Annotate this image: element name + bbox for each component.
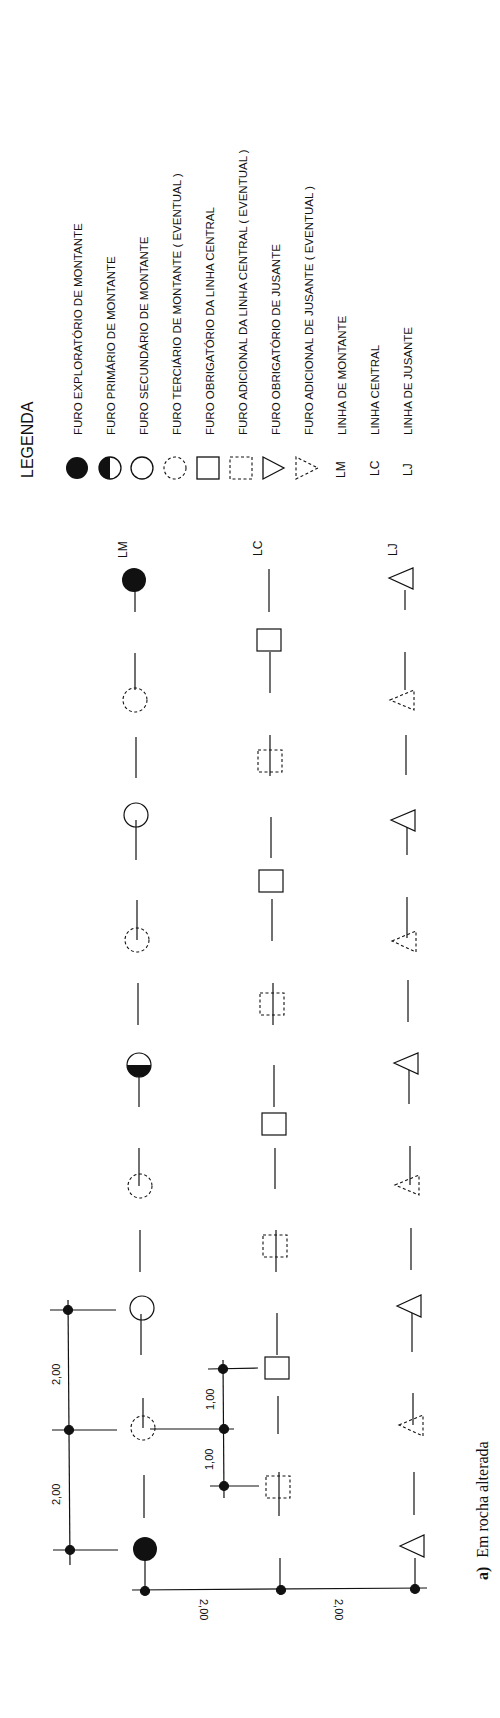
dashed-triangle-icon [392, 931, 416, 952]
legend-symbol-dashed-triangle-icon [296, 457, 318, 479]
open-square-icon [265, 1357, 289, 1379]
figure-caption: a) Em rocha alterada [474, 1441, 492, 1580]
line-tag-lm: LM [116, 541, 130, 558]
central-line [269, 569, 280, 1595]
open-triangle-icon [397, 1295, 421, 1317]
legend-symbol-half-filled-circle-icon [99, 457, 121, 479]
legend-label: LINHA DE MONTANTE [336, 315, 348, 435]
half-filled-circle-icon [127, 1053, 151, 1077]
legend-label: LINHA CENTRAL [369, 344, 381, 435]
legend-symbol-filled-circle-icon [66, 457, 88, 479]
dashed-triangle-icon [395, 1175, 419, 1195]
dimension-label: 1,00 [203, 1449, 215, 1470]
legend-label: FURO ADICIONAL DA LINHA CENTRAL ( EVENTU… [237, 149, 249, 435]
lj-symbols [389, 568, 424, 1557]
dashed-circle-icon [128, 1174, 152, 1198]
legend-label: FURO PRIMÁRIO DE MONTANTE [105, 256, 117, 435]
dashed-square-icon [266, 1476, 290, 1498]
dimension-label: 1,00 [204, 1389, 216, 1410]
legend: LEGENDA LM LC LJ FURO EXPLORA [19, 149, 415, 479]
dashed-circle-icon [123, 688, 147, 712]
legend-symbol-open-square-icon [197, 457, 219, 479]
legend-symbol-lj: LJ [401, 463, 415, 476]
line-tag-lc: LC [251, 540, 265, 556]
dimension-line-offset [132, 1585, 427, 1596]
dimension-label: 2,00 [333, 1599, 345, 1620]
open-square-icon [262, 1113, 286, 1135]
dashed-square-icon [263, 1235, 287, 1257]
dimension-label: 2,00 [198, 1599, 210, 1620]
open-triangle-icon [394, 1053, 418, 1074]
lm-symbols [122, 568, 157, 1561]
dimension-lc-spacing [150, 1360, 259, 1498]
legend-label: FURO SECUNDÁRIO DE MONTANTE [138, 236, 150, 435]
open-circle-icon [130, 1296, 154, 1320]
legend-label: FURO EXPLORATÓRIO DE MONTANTE [72, 223, 84, 435]
lc-symbols [257, 629, 290, 1498]
dimension-lm-spacing [50, 1300, 118, 1565]
legend-symbol-dashed-circle-icon [164, 457, 186, 479]
caption-text: Em rocha alterada [474, 1441, 491, 1557]
legend-symbol-dashed-square-icon [230, 457, 252, 479]
dashed-triangle-icon [390, 690, 414, 710]
dashed-square-icon [260, 993, 284, 1015]
dimension-label: 2,00 [50, 1364, 62, 1385]
legend-label: LINHA DE JUSANTE [402, 327, 414, 435]
jusante-line [405, 590, 415, 1590]
borehole-layout-diagram: LEGENDA LM LC LJ FURO EXPLORA [0, 0, 500, 1718]
open-triangle-icon [391, 810, 415, 831]
filled-circle-icon [122, 568, 146, 592]
legend-symbol-open-circle-icon [131, 457, 153, 479]
legend-title: LEGENDA [19, 401, 36, 478]
legend-label: FURO OBRIGATÓRIO DA LINHA CENTRAL [204, 206, 216, 435]
open-square-icon [259, 870, 283, 892]
legend-label: FURO TERCIÁRIO DE MONTANTE ( EVENTUAL ) [171, 173, 183, 435]
line-tag-lj: LJ [386, 543, 400, 556]
open-triangle-icon [389, 568, 413, 589]
legend-symbol-open-triangle-icon [263, 457, 284, 479]
legend-label: FURO OBRIGATÓRIO DE JUSANTE [270, 244, 282, 435]
filled-circle-icon [133, 1537, 157, 1561]
dimension-label: 2,00 [50, 1484, 62, 1505]
legend-symbol-lm: LM [334, 461, 348, 478]
open-triangle-icon [400, 1535, 424, 1557]
open-square-icon [257, 629, 281, 651]
legend-symbol-lc: LC [368, 460, 382, 476]
legend-label: FURO ADICIONAL DE JUSANTE ( EVENTUAL ) [303, 186, 315, 435]
dashed-triangle-icon [399, 1415, 423, 1436]
caption-prefix: a) [474, 1567, 492, 1580]
